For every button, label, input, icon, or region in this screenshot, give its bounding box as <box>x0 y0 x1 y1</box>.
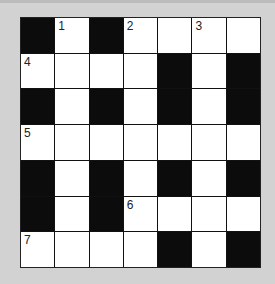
grid-cell[interactable] <box>158 18 191 53</box>
grid-cell[interactable] <box>90 125 123 160</box>
grid-cell[interactable] <box>55 232 88 267</box>
black-cell <box>227 54 260 89</box>
grid-cell[interactable]: 2 <box>124 18 157 53</box>
grid-cell[interactable]: 6 <box>124 197 157 232</box>
grid-cell[interactable] <box>124 125 157 160</box>
grid-cell[interactable]: 4 <box>21 54 54 89</box>
clue-number: 5 <box>24 127 31 139</box>
grid-cell[interactable]: 1 <box>55 18 88 53</box>
grid-cell[interactable] <box>124 89 157 124</box>
black-cell <box>90 161 123 196</box>
top-strip <box>0 0 275 3</box>
black-cell <box>158 89 191 124</box>
grid-cell[interactable] <box>192 232 225 267</box>
grid-cell[interactable] <box>192 161 225 196</box>
grid-cell[interactable] <box>55 197 88 232</box>
grid-cell[interactable] <box>227 18 260 53</box>
black-cell <box>21 197 54 232</box>
grid-cell[interactable] <box>158 197 191 232</box>
black-cell <box>158 54 191 89</box>
grid-cell[interactable] <box>124 161 157 196</box>
clue-number: 2 <box>127 20 134 32</box>
grid-cell[interactable] <box>55 125 88 160</box>
black-cell <box>158 161 191 196</box>
black-cell <box>21 18 54 53</box>
grid-cell[interactable] <box>158 125 191 160</box>
clue-number: 4 <box>24 56 31 68</box>
grid-cell[interactable] <box>227 197 260 232</box>
crossword-grid: 1234567 <box>20 17 261 268</box>
black-cell <box>158 232 191 267</box>
grid-cell[interactable] <box>124 232 157 267</box>
clue-number: 1 <box>58 20 65 32</box>
black-cell <box>90 18 123 53</box>
black-cell <box>90 197 123 232</box>
black-cell <box>90 89 123 124</box>
grid-cell[interactable] <box>55 54 88 89</box>
clue-number: 7 <box>24 234 31 246</box>
grid-cell[interactable] <box>227 125 260 160</box>
grid-cell[interactable] <box>192 54 225 89</box>
grid-cell[interactable]: 7 <box>21 232 54 267</box>
clue-number: 6 <box>127 199 134 211</box>
grid-cell[interactable]: 5 <box>21 125 54 160</box>
grid-cell[interactable] <box>192 89 225 124</box>
grid-cell[interactable] <box>192 125 225 160</box>
grid-cell[interactable] <box>90 232 123 267</box>
grid-cell[interactable]: 3 <box>192 18 225 53</box>
black-cell <box>227 161 260 196</box>
black-cell <box>227 89 260 124</box>
grid-cell[interactable] <box>124 54 157 89</box>
grid-cell[interactable] <box>90 54 123 89</box>
grid-cell[interactable] <box>55 89 88 124</box>
black-cell <box>21 161 54 196</box>
grid-cell[interactable] <box>55 161 88 196</box>
grid-cell[interactable] <box>192 197 225 232</box>
clue-number: 3 <box>195 20 202 32</box>
black-cell <box>227 232 260 267</box>
black-cell <box>21 89 54 124</box>
